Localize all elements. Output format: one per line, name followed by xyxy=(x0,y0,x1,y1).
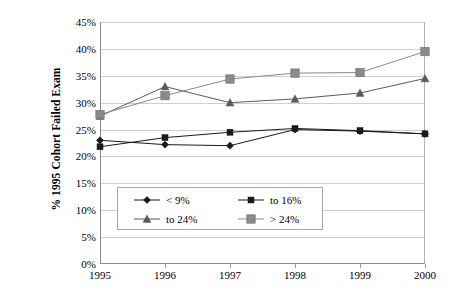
x-axis-tick-label: 2000 xyxy=(402,270,448,281)
data-point xyxy=(96,110,104,118)
x-axis-tick-label: 1997 xyxy=(207,270,253,281)
y-axis-tick-label: 10% xyxy=(60,205,96,216)
data-point xyxy=(162,135,168,141)
legend: < 9%to 16%to 24%> 24% xyxy=(117,187,323,230)
data-point xyxy=(356,68,364,76)
legend-marker-icon xyxy=(236,193,266,207)
legend-label: > 24% xyxy=(270,213,299,225)
legend-marker-icon xyxy=(132,212,162,226)
x-axis-tick-label: 1999 xyxy=(337,270,383,281)
x-axis-tick-mark xyxy=(425,264,426,268)
data-point xyxy=(161,91,169,99)
x-axis-tick-mark xyxy=(230,264,231,268)
data-point xyxy=(227,129,233,135)
x-axis-tick-label: 1998 xyxy=(272,270,318,281)
series-3 xyxy=(96,47,429,118)
data-point xyxy=(161,83,169,90)
x-axis-tick-mark xyxy=(295,264,296,268)
legend-label: to 24% xyxy=(166,213,197,225)
legend-marker-icon xyxy=(132,193,162,207)
legend-item[interactable]: < 9% xyxy=(132,191,190,209)
data-point xyxy=(422,131,428,137)
data-point xyxy=(291,69,299,77)
y-axis-tick-label: 5% xyxy=(60,232,96,243)
data-point xyxy=(357,128,363,134)
data-point xyxy=(97,144,103,150)
y-axis-tick-label: 25% xyxy=(60,125,96,136)
legend-item[interactable]: to 16% xyxy=(236,191,301,209)
x-axis-tick-mark xyxy=(360,264,361,268)
data-point xyxy=(96,137,103,144)
chart-page: % 1995 Cohort Failed Exam 0%5%10%15%20%2… xyxy=(0,0,456,307)
data-point xyxy=(161,141,168,148)
x-axis-tick-mark xyxy=(165,264,166,268)
y-axis-tick-label: 45% xyxy=(60,17,96,28)
series-2 xyxy=(96,74,429,119)
legend-label: to 16% xyxy=(270,194,301,206)
x-axis-tick-label: 1996 xyxy=(142,270,188,281)
data-point xyxy=(226,75,234,83)
legend-item[interactable]: > 24% xyxy=(236,210,299,228)
data-point xyxy=(292,125,298,131)
y-axis-tick-label: 20% xyxy=(60,151,96,162)
data-point xyxy=(421,74,429,81)
legend-item[interactable]: to 24% xyxy=(132,210,197,228)
y-axis-tick-label: 15% xyxy=(60,178,96,189)
data-point xyxy=(226,142,233,149)
series-0 xyxy=(96,126,428,149)
y-axis-tick-label: 35% xyxy=(60,71,96,82)
y-axis-tick-label: 30% xyxy=(60,98,96,109)
x-axis-tick-label: 1995 xyxy=(77,270,123,281)
legend-marker-icon xyxy=(236,212,266,226)
legend-label: < 9% xyxy=(166,194,190,206)
data-point xyxy=(421,47,429,55)
y-axis-tick-label: 40% xyxy=(60,44,96,55)
plot-area: < 9%to 16%to 24%> 24% xyxy=(100,22,425,264)
